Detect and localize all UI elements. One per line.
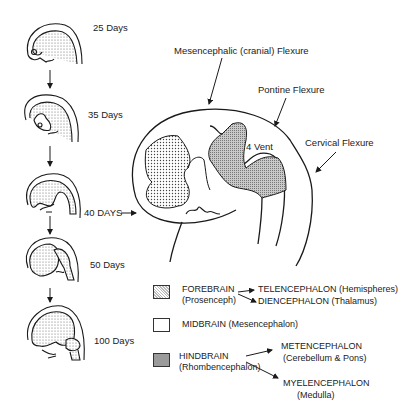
metencephalon-alt-label: (Cerebellum & Pons) <box>283 353 367 363</box>
forebrain-swatch <box>153 285 170 299</box>
embryo-40-days <box>27 174 81 218</box>
fourth-ventricle-label: 4 Vent <box>246 141 273 152</box>
forebrain-alt-label: (Prosenceph) <box>182 295 236 305</box>
stage-label-35-days: 35 Days <box>88 109 123 120</box>
hindbrain-alt-label: (Rhombencephalon) <box>179 362 261 372</box>
pontine-flexure-label: Pontine Flexure <box>258 84 325 95</box>
diencephalon-label: DIENCEPHALON (Thalamus) <box>258 296 377 306</box>
myelencephalon-alt-label: (Medulla) <box>297 390 335 400</box>
midbrain-swatch <box>153 318 170 332</box>
hindbrain-label: HINDBRAIN <box>179 351 229 361</box>
metencephalon-label: METENCEPHALON <box>281 341 362 351</box>
embryo-100-days <box>27 306 84 360</box>
mesencephalic-flexure-arrow <box>209 58 222 104</box>
embryo-25-days <box>27 24 82 64</box>
stage-label-50-days: 50 Days <box>90 259 125 270</box>
stage-label-25-days: 25 Days <box>93 22 128 33</box>
midbrain-label: MIDBRAIN (Mesencephalon) <box>182 319 298 329</box>
stage-label-40-days: 40 DAYS <box>84 207 122 218</box>
telencephalon-label: TELENCEPHALON (Hemispheres) <box>258 284 398 294</box>
hindbrain-swatch <box>153 353 170 367</box>
embryo-35-days <box>25 95 79 142</box>
cervical-flexure-label: Cervical Flexure <box>305 137 374 148</box>
myelencephalon-label: MYELENCEPHALON <box>283 378 370 388</box>
pontine-flexure-arrow <box>275 98 286 126</box>
forebrain-label: FOREBRAIN <box>182 284 235 294</box>
cervical-flexure-arrow <box>316 152 336 172</box>
stage-label-100-days: 100 Days <box>94 335 134 346</box>
embryo-50-days <box>26 238 78 282</box>
mesencephalic-flexure-label: Mesencephalic (cranial) Flexure <box>174 45 309 56</box>
large-brain-40-days <box>132 109 312 266</box>
